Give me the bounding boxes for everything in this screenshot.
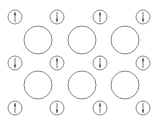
large-circle xyxy=(24,26,52,54)
arrowhead-icon xyxy=(14,103,17,106)
spin-site xyxy=(50,101,64,115)
arrowhead-icon xyxy=(142,19,145,22)
arrowhead-icon xyxy=(142,110,145,113)
arrowhead-icon xyxy=(56,19,59,22)
spin-site xyxy=(93,10,107,24)
large-circle xyxy=(68,71,96,99)
spin-site xyxy=(136,10,150,24)
spin-site xyxy=(136,101,150,115)
lattice-svg xyxy=(0,0,161,133)
arrowhead-icon xyxy=(99,103,102,106)
arrowhead-icon xyxy=(99,65,102,68)
large-circle xyxy=(24,71,52,99)
arrowhead-icon xyxy=(142,58,145,61)
large-circle xyxy=(111,26,139,54)
spin-site xyxy=(93,101,107,115)
arrowhead-icon xyxy=(99,12,102,15)
arrowhead-icon xyxy=(56,110,59,113)
large-circle xyxy=(68,26,96,54)
spin-site xyxy=(8,56,22,70)
spin-site xyxy=(136,56,150,70)
spin-site xyxy=(50,56,64,70)
lattice-diagram xyxy=(0,0,161,133)
spin-site xyxy=(93,56,107,70)
arrowhead-icon xyxy=(14,12,17,15)
arrowhead-icon xyxy=(56,58,59,61)
spin-site xyxy=(8,10,22,24)
arrowhead-icon xyxy=(14,65,17,68)
spin-site xyxy=(8,101,22,115)
spin-site xyxy=(50,10,64,24)
large-circle xyxy=(111,71,139,99)
